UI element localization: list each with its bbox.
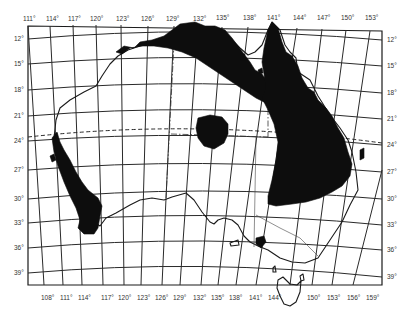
flinders-island [300, 274, 304, 281]
svg-text:123°: 123° [116, 15, 130, 22]
svg-text:30°: 30° [14, 195, 24, 202]
svg-text:138°: 138° [243, 14, 257, 21]
svg-text:27°: 27° [14, 166, 24, 173]
svg-text:21°: 21° [387, 115, 397, 122]
svg-text:36°: 36° [387, 246, 397, 253]
fraser-island [360, 148, 364, 160]
wa-nt-border [166, 43, 174, 198]
svg-text:126°: 126° [155, 294, 169, 301]
nsw-vic-border [256, 215, 318, 256]
svg-text:132°: 132° [193, 294, 207, 301]
svg-text:18°: 18° [14, 86, 24, 93]
svg-text:117°: 117° [101, 294, 114, 301]
svg-text:138°: 138° [229, 294, 243, 301]
svg-text:108°: 108° [41, 294, 55, 301]
left-latitude-labels: 12° 15° 18° 21° 24° 27° 30° 33° 36° 39° [14, 35, 24, 276]
svg-text:150°: 150° [341, 14, 355, 21]
svg-text:21°: 21° [14, 112, 24, 119]
svg-text:129°: 129° [173, 294, 187, 301]
svg-text:39°: 39° [14, 269, 24, 276]
svg-text:159°: 159° [366, 294, 380, 301]
top-longitude-labels: 111° 114° 117° 120° 123° 126° 129° 132° … [23, 14, 379, 22]
svg-text:144°: 144° [293, 14, 307, 21]
wellesley-islands [258, 68, 263, 74]
svg-text:12°: 12° [387, 36, 397, 43]
svg-text:150°: 150° [307, 294, 321, 301]
bottom-longitude-labels: 108° 111° 114° 117° 120° 123° 126° 129° … [41, 294, 380, 301]
svg-text:114°: 114° [78, 294, 91, 301]
svg-text:147°: 147° [317, 14, 331, 21]
svg-text:33°: 33° [14, 219, 24, 226]
svg-text:24°: 24° [387, 141, 397, 148]
svg-text:120°: 120° [118, 294, 132, 301]
svg-text:36°: 36° [14, 244, 24, 251]
svg-text:132°: 132° [193, 15, 207, 22]
svg-text:120°: 120° [90, 15, 104, 22]
svg-text:135°: 135° [216, 14, 230, 21]
svg-text:30°: 30° [387, 195, 397, 202]
central-isolated-patch [196, 115, 228, 149]
svg-text:117°: 117° [68, 15, 81, 22]
svg-text:39°: 39° [387, 273, 397, 280]
svg-text:114°: 114° [46, 15, 59, 22]
svg-text:141°: 141° [267, 14, 281, 21]
svg-text:126°: 126° [141, 15, 155, 22]
svg-text:153°: 153° [327, 294, 341, 301]
svg-text:153°: 153° [365, 14, 379, 21]
svg-text:141°: 141° [249, 294, 263, 301]
tasmania-outline [277, 277, 301, 306]
svg-text:123°: 123° [137, 294, 151, 301]
svg-text:111°: 111° [60, 294, 73, 301]
australia-distribution-map: 111° 114° 117° 120° 123° 126° 129° 132° … [0, 0, 409, 323]
svg-text:129°: 129° [166, 15, 180, 22]
svg-text:27°: 27° [387, 168, 397, 175]
svg-text:15°: 15° [387, 62, 397, 69]
svg-text:135°: 135° [211, 294, 225, 301]
svg-text:156°: 156° [347, 294, 361, 301]
svg-text:12°: 12° [14, 35, 24, 42]
northern-coast-region [116, 22, 282, 110]
svg-text:111°: 111° [23, 15, 36, 22]
right-latitude-labels: 12° 15° 18° 21° 24° 27° 30° 33° 36° 39° [387, 36, 397, 280]
svg-text:15°: 15° [14, 60, 24, 67]
queensland-east-region [262, 22, 352, 206]
svg-text:18°: 18° [387, 89, 397, 96]
svg-text:33°: 33° [387, 221, 397, 228]
svg-text:24°: 24° [14, 137, 24, 144]
